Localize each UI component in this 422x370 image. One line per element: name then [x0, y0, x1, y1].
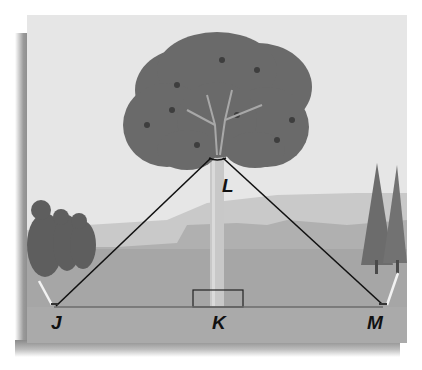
- point-label-J: J: [51, 313, 62, 332]
- scene-illustration: [27, 15, 407, 343]
- point-label-L: L: [222, 176, 234, 195]
- point-label-K: K: [212, 313, 226, 332]
- diagram-frame: L J K M: [27, 15, 407, 343]
- point-label-M: M: [367, 313, 383, 332]
